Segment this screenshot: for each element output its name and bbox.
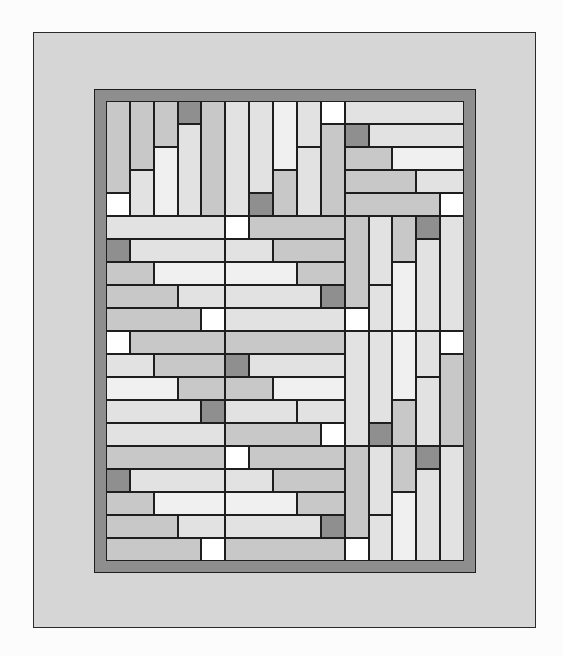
quilt-strip-lightest <box>392 262 416 331</box>
quilt-strip-light <box>345 101 464 124</box>
quilt-strip-light <box>178 285 226 308</box>
quilt-strip-lightest <box>392 492 416 561</box>
quilt-block <box>106 446 225 561</box>
quilt-strip-medium <box>392 216 416 262</box>
quilt-strip-medium <box>225 331 344 354</box>
quilt-strip-light <box>369 515 393 561</box>
quilt-square-dark <box>178 101 202 124</box>
quilt-strip-light <box>130 469 225 492</box>
quilt-strip-light <box>106 423 225 446</box>
quilt-strip-medium <box>273 469 345 492</box>
quilt-strip-light <box>297 400 345 423</box>
quilt-strip-medium <box>106 101 130 193</box>
quilt-square-dark <box>321 515 345 538</box>
quilt-strip-light <box>440 216 464 331</box>
quilt-square-white <box>440 193 464 216</box>
quilt-block <box>106 216 225 331</box>
quilt-square-dark <box>369 423 393 446</box>
quilt-strip-medium <box>321 124 345 216</box>
quilt-block <box>345 216 464 331</box>
quilt-strip-light <box>297 147 321 216</box>
quilt-strip-medium <box>106 446 225 469</box>
quilt-strip-light <box>369 124 464 147</box>
quilt-strip-light <box>130 170 154 216</box>
quilt-strip-light <box>225 101 249 216</box>
quilt-strip-lightest <box>392 331 416 400</box>
quilt-strip-medium <box>225 538 344 561</box>
quilt-strip-medium <box>225 423 320 446</box>
quilt-block <box>345 101 464 216</box>
quilt-strip-medium <box>178 377 226 400</box>
quilt-strip-light <box>369 331 393 423</box>
quilt-strip-lightest <box>273 377 345 400</box>
quilt-square-dark <box>345 124 369 147</box>
quilt-strip-medium <box>106 285 178 308</box>
quilt-block <box>345 446 464 561</box>
quilt-strip-light <box>178 124 202 216</box>
quilt-block <box>106 101 225 216</box>
quilt-strip-lightest <box>225 262 297 285</box>
quilt-square-white <box>201 308 225 331</box>
quilt-square-dark <box>106 239 130 262</box>
quilt-block <box>225 216 344 331</box>
quilt-block <box>225 101 344 216</box>
quilt-strip-lightest <box>273 101 297 170</box>
quilt-square-white <box>345 308 369 331</box>
quilt-square-dark <box>321 285 345 308</box>
quilt-square-dark <box>416 446 440 469</box>
quilt-square-white <box>225 216 249 239</box>
quilt-strip-medium <box>106 538 201 561</box>
quilt-strip-medium <box>392 446 416 492</box>
quilt-strip-lightest <box>392 147 464 170</box>
quilt-strip-medium <box>392 400 416 446</box>
quilt-strip-medium <box>273 239 345 262</box>
quilt-strip-lightest <box>154 492 226 515</box>
quilt-block <box>225 331 344 446</box>
quilt-strip-medium <box>154 101 178 147</box>
quilt-square-dark <box>416 216 440 239</box>
quilt-strip-light <box>178 515 226 538</box>
quilt-strip-medium <box>345 193 440 216</box>
quilt-square-white <box>321 423 345 446</box>
quilt-strip-medium <box>201 101 225 216</box>
quilt-strip-medium <box>154 354 226 377</box>
quilt-center <box>106 101 464 561</box>
quilt-strip-light <box>225 239 273 262</box>
quilt-strip-medium <box>249 216 344 239</box>
quilt-strip-lightest <box>225 492 297 515</box>
quilt-strip-medium <box>345 446 369 538</box>
quilt-strip-light <box>225 400 297 423</box>
quilt-strip-medium <box>249 446 344 469</box>
quilt-strip-light <box>416 170 464 193</box>
quilt-strip-light <box>416 239 440 331</box>
quilt-strip-medium <box>106 262 154 285</box>
quilt-square-white <box>321 101 345 124</box>
quilt-strip-lightest <box>106 377 178 400</box>
quilt-strip-medium <box>273 170 297 216</box>
quilt-block <box>345 331 464 446</box>
quilt-strip-lightest <box>154 147 178 216</box>
quilt-square-white <box>440 331 464 354</box>
quilt-strip-light <box>345 331 369 446</box>
quilt-block <box>106 331 225 446</box>
quilt-strip-light <box>106 354 154 377</box>
quilt-strip-light <box>249 354 344 377</box>
quilt-square-white <box>201 538 225 561</box>
quilt-strip-light <box>249 101 273 193</box>
quilt-strip-medium <box>345 216 369 308</box>
quilt-strip-light <box>106 216 225 239</box>
quilt-square-white <box>345 538 369 561</box>
quilt-square-dark <box>249 193 273 216</box>
quilt-strip-light <box>297 101 321 147</box>
quilt-strip-medium <box>130 331 225 354</box>
quilt-strip-medium <box>297 262 345 285</box>
quilt-square-dark <box>201 400 225 423</box>
quilt-strip-light <box>225 469 273 492</box>
quilt-strip-medium <box>440 354 464 446</box>
quilt-square-white <box>225 446 249 469</box>
quilt-square-white <box>106 193 130 216</box>
quilt-square-dark <box>225 354 249 377</box>
quilt-strip-light <box>416 469 440 561</box>
quilt-strip-medium <box>225 377 273 400</box>
quilt-strip-medium <box>297 492 345 515</box>
